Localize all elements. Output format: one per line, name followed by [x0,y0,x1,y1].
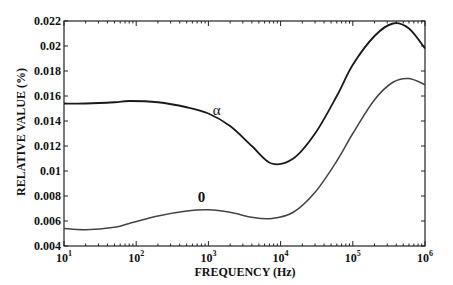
axes: 0.0040.0060.0080.010.0120.0140.0160.0180… [34,14,433,265]
x-tick-label: 103 [200,249,216,265]
y-tick-label: 0.008 [34,189,61,203]
x-tick-label: 102 [128,249,144,265]
curves: α0 [64,23,425,230]
curve-label-alpha: α [213,102,221,118]
y-tick-label: 0.012 [34,139,61,153]
y-tick-label: 0.016 [34,89,61,103]
y-tick-label: 0.006 [34,214,61,228]
x-tick-label: 106 [417,249,433,265]
y-tick-label: 0.022 [34,14,61,28]
y-tick-label: 0.01 [40,164,61,178]
y-tick-label: 0.02 [40,39,61,53]
y-tick-label: 0.014 [34,114,61,128]
x-tick-label: 104 [273,249,289,265]
curve-alpha [64,23,425,164]
y-axis-label: RELATIVE VALUE (%) [14,68,28,196]
x-axis-label: FREQUENCY (Hz) [194,265,295,279]
x-tick-label: 105 [345,249,361,265]
curve-label-zero: 0 [198,189,206,205]
plot-frame [64,21,425,246]
y-tick-label: 0.018 [34,64,61,78]
x-tick-label: 101 [56,249,72,265]
line-chart: 0.0040.0060.0080.010.0120.0140.0160.0180… [0,0,453,285]
